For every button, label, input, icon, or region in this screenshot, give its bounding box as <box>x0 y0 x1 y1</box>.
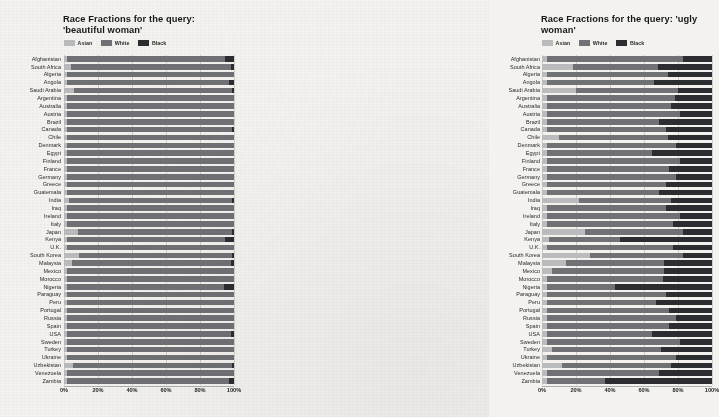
y-axis-label: Japan <box>525 229 540 235</box>
bar-segment-black <box>231 260 234 266</box>
bar-segment-black <box>232 127 234 133</box>
x-axis-left: 0%20%40%60%80%100% <box>64 387 234 401</box>
y-axis-label: USA <box>50 331 61 337</box>
y-axis-label: Finland <box>43 158 61 164</box>
y-axis-label: France <box>44 166 61 172</box>
bar-segment-black <box>683 253 712 259</box>
bar-segment-white <box>78 229 233 235</box>
legend-item-white[interactable]: White <box>579 40 607 46</box>
bar-segment-white <box>67 72 234 78</box>
y-axis-label: Sweden <box>41 339 61 345</box>
bar-row <box>64 166 234 172</box>
bar-segment-asian <box>542 135 559 141</box>
legend-swatch-asian-icon <box>64 40 75 46</box>
y-axis-label: South Africa <box>510 64 540 70</box>
bar-segment-white <box>67 355 234 361</box>
y-axis-label: Brazil <box>526 119 540 125</box>
bar-segment-white <box>67 323 234 329</box>
y-axis-label: Italy <box>530 221 540 227</box>
y-axis-label: U.K. <box>529 244 540 250</box>
bar-segment-black <box>659 370 712 376</box>
bar-row <box>64 143 234 149</box>
bar-segment-white <box>547 205 666 211</box>
bar-row <box>64 221 234 227</box>
y-axis-label: Greece <box>43 181 61 187</box>
bar-row <box>64 229 234 235</box>
bar-segment-black <box>232 253 234 259</box>
bar-row <box>542 119 712 125</box>
bar-segment-white <box>79 253 232 259</box>
bar-row <box>64 198 234 204</box>
y-axis-label: Nigeria <box>43 284 61 290</box>
bar-segment-white <box>579 198 671 204</box>
x-axis-right: 0%20%40%60%80%100% <box>542 387 712 401</box>
chart-panel-ugly-woman: Race Fractions for the query: 'ugly woma… <box>245 0 489 417</box>
bar-row <box>64 253 234 259</box>
bar-segment-white <box>67 292 234 298</box>
bar-segment-black <box>225 56 234 62</box>
x-tick-label: 40% <box>604 387 615 393</box>
bar-row <box>542 221 712 227</box>
y-axis-label: France <box>523 166 540 172</box>
bar-segment-black <box>668 135 712 141</box>
bar-segment-white <box>67 213 234 219</box>
bar-row <box>542 308 712 314</box>
x-tick-label: 80% <box>194 387 205 393</box>
y-axis-label: USA <box>529 331 540 337</box>
bar-segment-white <box>67 127 233 133</box>
legend-item-white[interactable]: White <box>101 40 129 46</box>
legend-item-black[interactable]: Black <box>616 40 644 46</box>
y-axis-labels-left: AfghanistanSouth AfricaAlgeriaAngolaSaud… <box>0 55 61 385</box>
bar-segment-black <box>229 80 234 86</box>
y-axis-label: Paraguay <box>37 291 61 297</box>
bar-row <box>542 276 712 282</box>
bar-segment-white <box>547 166 669 172</box>
bar-segment-white <box>67 135 234 141</box>
y-axis-label: Portugal <box>519 307 540 313</box>
bars-left <box>64 55 234 385</box>
bar-segment-white <box>552 347 661 353</box>
bar-row <box>64 237 234 243</box>
bar-segment-white <box>547 331 652 337</box>
bar-segment-black <box>668 72 712 78</box>
bar-segment-white <box>67 300 234 306</box>
bar-segment-asian <box>542 347 552 353</box>
bar-segment-asian <box>542 229 585 235</box>
bar-row <box>542 347 712 353</box>
legend-item-asian[interactable]: Asian <box>542 40 570 46</box>
bar-segment-white <box>73 363 233 369</box>
legend-item-black[interactable]: Black <box>138 40 166 46</box>
y-axis-label: Sweden <box>520 339 540 345</box>
x-tick-label: 40% <box>126 387 137 393</box>
bar-row <box>542 229 712 235</box>
bar-segment-white <box>547 355 676 361</box>
y-axis-label: Ireland <box>44 213 61 219</box>
bar-segment-black <box>664 260 712 266</box>
bar-row <box>542 135 712 141</box>
bar-row <box>542 253 712 259</box>
bar-segment-black <box>669 323 712 329</box>
legend-item-asian[interactable]: Asian <box>64 40 92 46</box>
bar-segment-white <box>67 143 234 149</box>
y-axis-label: Kenya <box>524 236 540 242</box>
bar-segment-white <box>547 308 669 314</box>
bar-segment-asian <box>64 88 74 94</box>
legend-swatch-white-icon <box>101 40 112 46</box>
bar-segment-white <box>547 213 680 219</box>
y-axis-label: Spain <box>47 323 61 329</box>
y-axis-label: Algeria <box>523 71 540 77</box>
bar-segment-white <box>547 339 680 345</box>
y-axis-label: Guatemala <box>513 189 540 195</box>
bar-segment-asian <box>542 260 566 266</box>
bar-segment-black <box>680 213 712 219</box>
bar-row <box>64 190 234 196</box>
bar-segment-asian <box>64 363 73 369</box>
bar-segment-black <box>658 64 712 70</box>
bar-segment-black <box>232 88 234 94</box>
bar-row <box>542 300 712 306</box>
bar-row <box>64 268 234 274</box>
chart-legend-left: AsianWhiteBlack <box>64 40 166 46</box>
y-axis-label: Zambia <box>521 378 540 384</box>
y-axis-label: Uzbekistan <box>34 362 61 368</box>
bar-row <box>542 292 712 298</box>
